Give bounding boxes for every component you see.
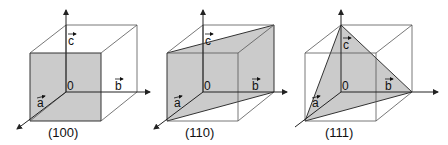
c-label: c bbox=[343, 38, 349, 52]
caption-100: (100) bbox=[48, 125, 78, 140]
miller-planes-diagram: c b a 0 (100) c b a bbox=[0, 0, 448, 145]
caption-111: (111) bbox=[325, 125, 353, 140]
c-label: c bbox=[68, 34, 74, 48]
origin-label: 0 bbox=[342, 79, 349, 93]
b-label: b bbox=[252, 79, 259, 93]
caption-110: (110) bbox=[185, 125, 214, 140]
diagram-canvas: c b a 0 (100) c b a bbox=[0, 0, 448, 145]
c-label: c bbox=[205, 34, 211, 48]
b-label: b bbox=[385, 79, 392, 93]
origin-label: 0 bbox=[67, 79, 74, 93]
panel-110: c b a 0 (110) bbox=[154, 10, 287, 140]
origin-label: 0 bbox=[204, 79, 211, 93]
b-label: b bbox=[115, 79, 122, 93]
panel-100: c b a 0 (100) bbox=[17, 10, 150, 140]
panel-111: c b a 0 (111) bbox=[295, 10, 438, 140]
